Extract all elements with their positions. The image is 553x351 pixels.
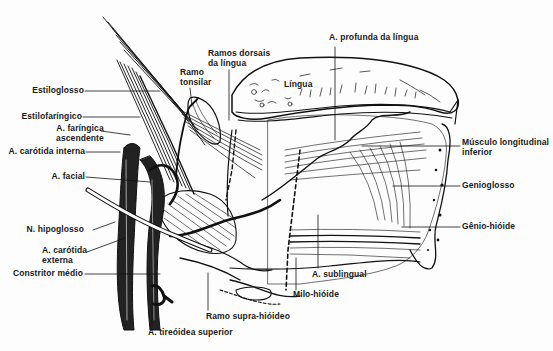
- label-milo-hioide: Milo-hióide: [293, 290, 339, 300]
- label-estilofaringico: Estilofaríngico: [4, 112, 82, 122]
- label-profunda-lingua: A. profunda da língua: [329, 33, 418, 43]
- lingual-artery: [170, 200, 280, 236]
- suprahyoid-branch: [180, 258, 240, 280]
- label-longitudinal-line2: inferior: [462, 148, 549, 158]
- label-genioglosso: Genioglosso: [462, 181, 515, 191]
- deep-lingual-artery: [262, 112, 410, 200]
- label-ramos-dorsais: Ramos dorsais da língua: [208, 49, 270, 68]
- tongue-muscle-fibers: [285, 132, 426, 258]
- label-facial: A. facial: [40, 172, 85, 182]
- label-faringica-ascendente: A. faríngica ascendente: [55, 124, 105, 143]
- label-hipoglosso: N. hipoglosso: [20, 225, 84, 235]
- papillae: [250, 68, 440, 107]
- label-ramo-tonsilar-line2: tonsilar: [180, 78, 212, 88]
- label-tireoidea-superior: A. tireóidea superior: [148, 328, 233, 338]
- label-faringica-line2: ascendente: [55, 134, 105, 144]
- label-genio-hioide: Gênio-hióide: [462, 222, 515, 232]
- leader-lines: [83, 47, 460, 325]
- label-ramo-supra-hioideo: Ramo supra-hióideo: [206, 312, 290, 322]
- label-carotida-externa-line2: externa: [42, 256, 92, 266]
- label-estiloglosso: Estiloglosso: [14, 86, 84, 96]
- label-lingua: Língua: [284, 80, 312, 90]
- styloglossus-fibers: [180, 110, 262, 178]
- label-ramos-dorsais-line2: da língua: [208, 59, 270, 69]
- label-sublingual: A. sublingual: [312, 270, 367, 280]
- label-carotida-interna: A. carótida interna: [4, 147, 85, 157]
- hyoid: [236, 287, 271, 300]
- floor-of-mouth: [230, 260, 420, 269]
- internal-carotid: [117, 144, 140, 331]
- label-carotida-externa: A. carótida externa: [42, 246, 92, 265]
- label-ramo-tonsilar: Ramo tonsilar: [180, 68, 212, 87]
- label-constritor-medio: Constritor médio: [4, 269, 83, 279]
- label-longitudinal-inferior: Músculo longitudinal inferior: [462, 138, 549, 157]
- anatomical-figure: Estiloglosso Estilofaríngico A. faríngic…: [0, 0, 553, 351]
